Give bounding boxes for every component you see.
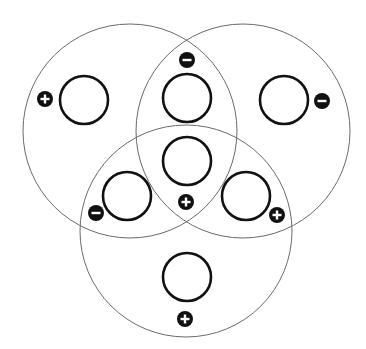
empty-slot-circle[interactable] (163, 137, 211, 185)
slot-left-bottom-intersection[interactable] (88, 172, 151, 221)
empty-slot-circle[interactable] (163, 74, 211, 122)
slot-circles (37, 52, 330, 327)
plus-badge-icon (177, 311, 193, 327)
minus-badge-icon (88, 205, 104, 221)
minus-badge-icon (314, 93, 330, 109)
slot-right-bottom-intersection[interactable] (222, 172, 285, 223)
plus-badge-icon (269, 207, 285, 223)
empty-slot-circle[interactable] (60, 76, 108, 124)
plus-badge-icon (37, 91, 53, 107)
slot-top-right-only[interactable] (260, 76, 330, 124)
slot-top-intersection[interactable] (163, 52, 211, 122)
slot-bottom-only[interactable] (163, 253, 211, 327)
minus-badge-icon (179, 52, 195, 68)
empty-slot-circle[interactable] (222, 172, 270, 220)
venn-diagram (0, 0, 366, 349)
empty-slot-circle[interactable] (260, 76, 308, 124)
slot-center[interactable] (163, 137, 211, 210)
empty-slot-circle[interactable] (163, 253, 211, 301)
slot-top-left-only[interactable] (37, 76, 108, 124)
plus-badge-icon (178, 194, 194, 210)
empty-slot-circle[interactable] (103, 172, 151, 220)
